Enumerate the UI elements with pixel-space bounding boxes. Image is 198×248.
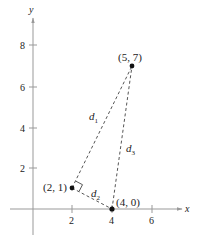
- y-axis-label: y: [28, 4, 34, 15]
- point-label-2-1: (2, 1): [43, 181, 67, 194]
- point-label-5-7: (5, 7): [118, 51, 142, 64]
- label-d3: d3: [126, 142, 136, 157]
- y-tick-label: 6: [20, 82, 25, 93]
- point-5-7: [130, 64, 135, 69]
- diagram-canvas: x y 2 4 6 2 4 6 8 (5, 7): [0, 0, 198, 248]
- coordinate-plane: x y 2 4 6 2 4 6 8 (5, 7): [0, 0, 198, 248]
- y-tick-label: 2: [20, 163, 25, 174]
- label-d2: d2: [91, 187, 101, 202]
- right-angle-marker: [76, 181, 83, 192]
- x-tick-label: 2: [69, 215, 74, 226]
- y-tick-label: 8: [20, 40, 25, 51]
- y-tick-label: 4: [20, 123, 25, 134]
- label-d1: d1: [89, 110, 99, 125]
- x-axis-label: x: [184, 203, 190, 214]
- point-2-1: [70, 186, 75, 191]
- x-tick-label: 4: [109, 215, 114, 226]
- point-4-0: [109, 206, 114, 211]
- x-tick-label: 6: [149, 215, 154, 226]
- point-label-4-0: (4, 0): [116, 196, 140, 209]
